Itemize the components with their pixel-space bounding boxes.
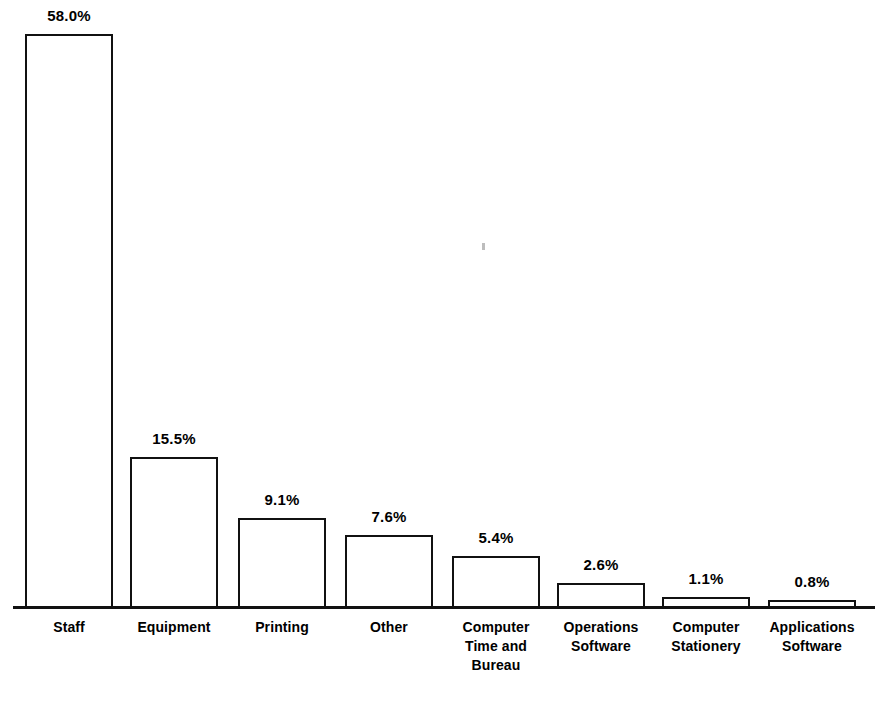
bar-other bbox=[345, 535, 433, 608]
bar-value-label-computer-stationery: 1.1% bbox=[662, 571, 750, 587]
bar-staff bbox=[25, 34, 113, 608]
x-axis-tick-labels: StaffEquipmentPrintingOtherComputerTime … bbox=[0, 618, 888, 709]
bar-value-label-applications-software: 0.8% bbox=[768, 574, 856, 590]
bar-value-label-equipment: 15.5% bbox=[130, 431, 218, 447]
bar-operations-software bbox=[557, 583, 645, 608]
x-tick-label-line: Bureau bbox=[432, 656, 560, 675]
x-tick-label-line: Software bbox=[748, 637, 876, 656]
bar-printing bbox=[238, 518, 326, 608]
bar-equipment bbox=[130, 457, 218, 608]
x-tick-label-applications-software: ApplicationsSoftware bbox=[748, 618, 876, 656]
bar-value-label-staff: 58.0% bbox=[25, 8, 113, 24]
bar-chart: 58.0%15.5%9.1%7.6%5.4%2.6%1.1%0.8% Staff… bbox=[0, 0, 888, 709]
bar-computer-time-and-bureau bbox=[452, 556, 540, 608]
bar-value-label-printing: 9.1% bbox=[238, 492, 326, 508]
plot-area: 58.0%15.5%9.1%7.6%5.4%2.6%1.1%0.8% bbox=[0, 0, 888, 608]
bar-value-label-computer-time-and-bureau: 5.4% bbox=[452, 530, 540, 546]
bar-value-label-operations-software: 2.6% bbox=[557, 557, 645, 573]
bar-value-label-other: 7.6% bbox=[345, 509, 433, 525]
x-axis-line bbox=[13, 606, 875, 609]
x-tick-label-line: Applications bbox=[748, 618, 876, 637]
scan-artifact-speck bbox=[482, 243, 485, 250]
